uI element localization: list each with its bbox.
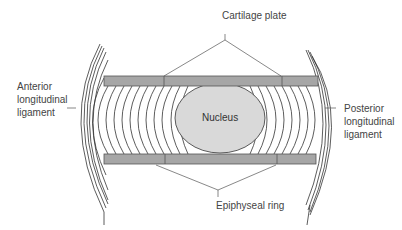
upper-cartilage-plate (104, 76, 318, 86)
disc-diagram: Cartilage plate Anterior longitudinal li… (0, 0, 402, 230)
label-line: Posterior (344, 102, 395, 115)
label-nucleus: Nucleus (202, 112, 238, 123)
label-line: longitudinal (17, 93, 68, 106)
label-posterior-longitudinal-ligament: Posterior longitudinal ligament (344, 102, 395, 141)
anterior-ligament-curves (81, 44, 108, 225)
label-line: ligament (17, 106, 68, 119)
label-line: ligament (344, 128, 395, 141)
label-line: longitudinal (344, 115, 395, 128)
label-anterior-longitudinal-ligament: Anterior longitudinal ligament (17, 80, 68, 119)
annulus-lamellae-left (98, 86, 188, 154)
label-cartilage-plate: Cartilage plate (222, 9, 286, 22)
label-epiphyseal-ring: Epiphyseal ring (216, 199, 284, 212)
lower-cartilage-plate (104, 154, 316, 164)
label-line: Anterior (17, 80, 68, 93)
